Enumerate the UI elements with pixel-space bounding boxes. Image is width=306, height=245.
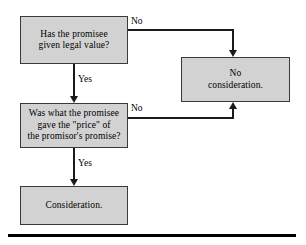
edge-label-yes-top: Yes xyxy=(78,74,92,85)
arrowhead-down-icon xyxy=(70,179,78,186)
edge-price-promise-yes xyxy=(73,148,75,180)
edge-legal-value-yes xyxy=(73,64,75,97)
edge-price-promise-no-vertical xyxy=(232,109,234,119)
edge-label-no-top: No xyxy=(131,16,143,27)
outcome-node-no-consideration: No consideration. xyxy=(181,57,290,102)
outcome-node-consideration: Consideration. xyxy=(20,186,128,225)
edge-legal-value-no-horizontal xyxy=(128,29,234,31)
arrowhead-up-icon xyxy=(229,102,237,109)
outcome-node-consideration-label: Consideration. xyxy=(42,200,105,212)
edge-label-no-mid: No xyxy=(131,103,143,114)
flowchart-canvas: Has the promisee given legal value? Was … xyxy=(0,0,306,245)
decision-node-price-promise-label: Was what the promisee gave the "price" o… xyxy=(24,108,123,143)
outcome-node-no-consideration-label: No consideration. xyxy=(205,68,266,91)
decision-node-price-promise: Was what the promisee gave the "price" o… xyxy=(20,103,128,148)
arrowhead-down-icon xyxy=(70,96,78,103)
edge-price-promise-no-horizontal xyxy=(128,117,234,119)
arrowhead-down-icon xyxy=(229,50,237,57)
footer-divider xyxy=(8,234,296,237)
decision-node-legal-value: Has the promisee given legal value? xyxy=(20,16,128,64)
decision-node-legal-value-label: Has the promisee given legal value? xyxy=(36,29,113,52)
edge-label-yes-bottom: Yes xyxy=(78,158,92,169)
edge-legal-value-no-vertical xyxy=(232,29,234,51)
